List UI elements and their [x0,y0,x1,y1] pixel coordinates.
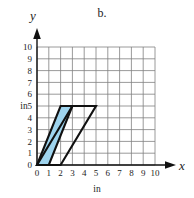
y-tick-label: 3 [28,125,33,135]
y-tick-label: 2 [28,137,33,147]
y-axis-name-label: y [28,8,36,23]
x-axis-name-label: x [178,158,185,173]
x-tick-label: 0 [35,168,40,178]
y-axis-unit-label: in [20,101,28,111]
part-label: b. [98,6,107,20]
x-tick-label: 10 [151,168,161,178]
x-tick-label: 8 [129,168,134,178]
y-tick-label: 8 [28,66,33,76]
x-tick-label: 1 [47,168,52,178]
x-tick-label: 3 [70,168,75,178]
y-tick-label: 6 [28,89,33,99]
y-tick-label: 7 [28,78,33,88]
x-tick-label: 6 [106,168,111,178]
x-axis-unit-label: in [93,184,101,194]
y-tick-label: 1 [28,148,33,158]
x-tick-label: 2 [58,168,63,178]
x-tick-label: 7 [117,168,122,178]
y-tick-label: 10 [23,42,33,52]
figure-root: 012345678910 012345678910 y x in in b. [0,0,194,198]
y-tick-label: 0 [28,160,33,170]
coordinate-grid-figure: 012345678910 012345678910 y x in in b. [0,0,194,198]
y-tick-label: 5 [28,101,33,111]
x-tick-label: 5 [94,168,99,178]
y-tick-label: 9 [28,54,33,64]
x-tick-label: 9 [141,168,146,178]
x-tick-label: 4 [82,168,87,178]
y-tick-label: 4 [28,113,33,123]
